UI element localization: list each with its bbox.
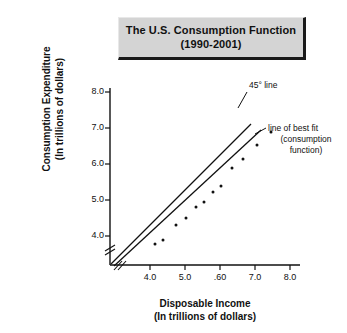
consumption-function-figure: The U.S. Consumption Function (1990-2001… — [0, 0, 347, 333]
data-point — [256, 144, 259, 147]
data-point — [270, 131, 273, 134]
data-point — [195, 206, 198, 209]
data-point — [185, 217, 188, 220]
scatter-points — [154, 131, 273, 246]
leader-line-best-fit — [255, 128, 266, 134]
data-point — [231, 167, 234, 170]
data-point — [203, 201, 206, 204]
forty-five-degree-line — [111, 124, 251, 264]
x-axis-ticks — [150, 265, 290, 270]
data-point — [154, 243, 157, 246]
plot-area — [0, 0, 347, 333]
data-point — [242, 158, 245, 161]
leader-line-45 — [238, 92, 247, 108]
data-point — [220, 185, 223, 188]
y-axis-ticks — [105, 92, 110, 236]
line-of-best-fit — [114, 130, 261, 266]
data-point — [175, 224, 178, 227]
data-point — [162, 239, 165, 242]
data-point — [212, 191, 215, 194]
